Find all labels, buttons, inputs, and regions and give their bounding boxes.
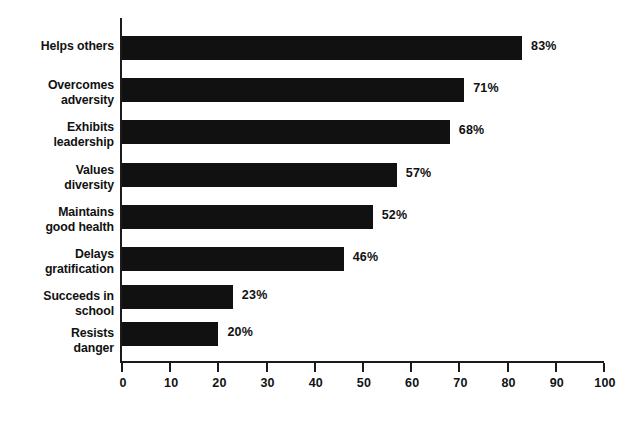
bar-value-label: 46% [353,250,379,264]
category-label-line: Delays [2,247,114,262]
x-axis-tick-mark [314,363,316,372]
category-label-line: school [2,304,114,319]
category-axis-labels: Helps others Overcomes adversity Exhibit… [0,0,114,421]
bar [122,205,373,229]
category-label: Maintains good health [2,205,114,234]
bar [122,36,522,60]
x-axis-tick-label: 20 [199,376,239,390]
category-label-line: diversity [2,178,114,193]
x-axis-tick-label: 0 [103,376,143,390]
category-label-line: good health [2,220,114,235]
x-axis-tick-label: 60 [392,376,432,390]
category-label: Helps others [2,39,114,54]
bar-value-label: 71% [473,81,499,95]
x-axis-tick-mark [458,363,460,372]
category-label-line: Values [2,163,114,178]
x-axis-tick-label: 90 [537,376,577,390]
bar [122,247,344,271]
bar-chart: Helps others Overcomes adversity Exhibit… [0,0,644,421]
x-axis-tick-mark [507,363,509,372]
x-axis-tick-mark [121,363,123,372]
x-axis-tick-mark [266,363,268,372]
category-label: Values diversity [2,163,114,192]
bar-value-label: 83% [531,39,557,53]
category-label: Exhibits leadership [2,120,114,149]
x-axis-tick-mark [362,363,364,372]
bar [122,120,450,144]
x-axis-tick-mark [169,363,171,372]
x-axis-tick-label: 70 [440,376,480,390]
x-axis-tick-label: 40 [296,376,336,390]
x-axis-tick-label: 100 [585,376,625,390]
x-axis-tick-label: 30 [248,376,288,390]
category-label-line: Succeeds in [2,289,114,304]
x-axis-tick-mark [410,363,412,372]
category-label: Succeeds in school [2,289,114,318]
category-label: Delays gratification [2,247,114,276]
x-axis-tick-mark [555,363,557,372]
category-label-line: Resists [2,326,114,341]
category-label: Overcomes adversity [2,78,114,107]
bar [122,78,464,102]
x-axis-tick-mark [217,363,219,372]
bar-value-label: 23% [242,288,268,302]
category-label: Resists danger [2,326,114,355]
category-label-line: leadership [2,135,114,150]
category-label-line: Helps others [2,39,114,54]
bar [122,163,397,187]
bar-value-label: 68% [459,123,485,137]
x-axis-tick-mark [603,363,605,372]
bar [122,285,233,309]
x-axis-tick-label: 50 [344,376,384,390]
bar-value-label: 20% [227,325,253,339]
category-label-line: Exhibits [2,120,114,135]
category-label-line: Maintains [2,205,114,220]
bar-value-label: 57% [406,166,432,180]
category-label-line: adversity [2,93,114,108]
bar [122,322,218,346]
category-label-line: gratification [2,262,114,277]
category-label-line: danger [2,341,114,356]
x-axis-tick-label: 80 [489,376,529,390]
category-label-line: Overcomes [2,78,114,93]
bar-value-label: 52% [382,208,408,222]
plot-area: 83% 71% 68% 57% 52% 46% 23% 20% [122,18,604,362]
x-axis-tick-label: 10 [151,376,191,390]
